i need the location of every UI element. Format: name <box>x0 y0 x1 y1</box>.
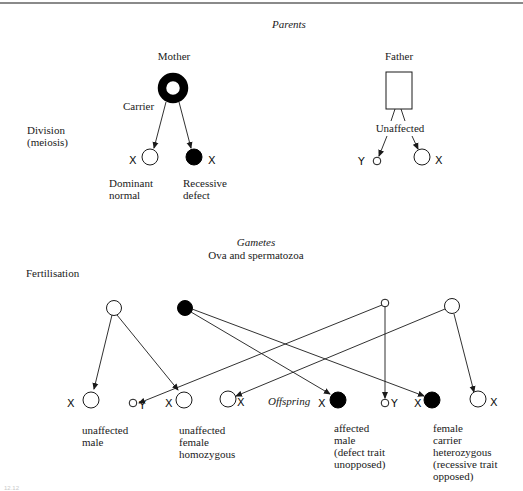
caption-line: heterozygous <box>433 446 492 458</box>
caption-line: unaffected <box>82 424 129 436</box>
caption-line: unopposed) <box>334 458 386 471</box>
caption-line: carrier <box>433 434 462 446</box>
offspring-caption-female-carrier: female carrier heterozygous (recessive t… <box>433 422 497 483</box>
gamete-x-marker: X <box>129 154 137 167</box>
y-sperm-symbol <box>373 157 381 165</box>
caption-line: male <box>82 436 103 448</box>
father-to-y-gamete-arrow <box>379 136 387 156</box>
father-to-x-gamete-arrow <box>412 136 418 149</box>
y-sperm-symbol <box>381 299 389 307</box>
offspring-x-marker: X <box>67 397 75 410</box>
mother-status: Carrier <box>123 100 154 112</box>
fertilisation-label: Fertilisation <box>26 267 80 279</box>
offspring-caption-affected-male: affected male (defect trait unopposed) <box>334 422 386 471</box>
father-leg-line <box>391 109 395 121</box>
offspring-defect-ovum-symbol <box>330 392 346 408</box>
fertilisation-line <box>117 315 178 390</box>
fertilisation-line <box>454 314 474 392</box>
x-linked-inheritance-diagram: Parents Gametes Ova and spermatozoa Divi… <box>0 0 523 491</box>
father-male-symbol <box>386 72 412 109</box>
normal-ovum-symbol <box>142 149 158 165</box>
offspring-x-marker: X <box>165 397 173 410</box>
caption-line: female <box>179 436 209 448</box>
fertilisation-line <box>192 309 424 396</box>
offspring-normal-ovum-symbol <box>83 392 99 408</box>
x-sperm-symbol <box>445 299 460 314</box>
caption-line: unaffected <box>179 424 226 436</box>
offspring-x-sperm-symbol <box>470 391 486 407</box>
offspring-defect-ovum-symbol <box>424 392 440 408</box>
offspring-x-marker: X <box>490 396 498 409</box>
mother-to-defect-gamete-arrow <box>179 102 191 148</box>
figure-number: 12.12 <box>4 485 20 491</box>
offspring-x-marker: X <box>237 396 245 409</box>
caption-line: opposed) <box>433 470 474 483</box>
x-sperm-symbol <box>414 149 430 165</box>
mother-carrier-symbol <box>162 77 184 99</box>
dominant-normal-caption-2: normal <box>109 189 140 201</box>
parents-heading: Parents <box>271 18 306 30</box>
offspring-y-marker: Y <box>138 399 146 412</box>
dominant-normal-caption-1: Dominant <box>109 177 153 189</box>
father-status: Unaffected <box>376 122 425 134</box>
offspring-x-sperm-symbol <box>220 391 236 407</box>
gamete-x-marker: X <box>435 154 443 167</box>
defect-ovum-symbol <box>186 149 202 165</box>
caption-line: female <box>433 422 463 434</box>
offspring-x-marker: X <box>318 397 326 410</box>
gametes-heading: Gametes <box>237 236 276 248</box>
division-label-line2: (meiosis) <box>27 136 68 149</box>
division-label-line1: Division <box>27 124 65 136</box>
mother-to-normal-gamete-arrow <box>154 102 166 148</box>
fertilisation-line <box>94 315 112 389</box>
caption-line: homozygous <box>179 448 235 460</box>
offspring-x-marker: X <box>414 397 422 410</box>
caption-line: affected <box>334 422 370 434</box>
father-leg-line <box>401 109 405 121</box>
offspring-heading: Offspring <box>268 395 311 407</box>
offspring-normal-ovum-symbol <box>176 392 192 408</box>
offspring-caption-unaffected-male: unaffected male <box>82 424 129 448</box>
offspring-y-marker: Y <box>390 397 398 410</box>
fertilisation-line <box>139 305 382 403</box>
offspring-y-sperm-symbol <box>129 399 137 407</box>
mother-label: Mother <box>158 50 191 62</box>
father-label: Father <box>385 50 413 62</box>
defect-ovum-symbol <box>178 301 193 316</box>
caption-line: male <box>334 434 355 446</box>
gamete-y-marker: Y <box>357 155 365 168</box>
gametes-subheading: Ova and spermatozoa <box>208 249 303 261</box>
normal-ovum-symbol <box>107 301 122 316</box>
offspring-caption-unaffected-female: unaffected female homozygous <box>179 424 235 460</box>
gamete-x-marker: X <box>208 154 216 167</box>
recessive-defect-caption-2: defect <box>183 189 210 201</box>
recessive-defect-caption-1: Recessive <box>183 177 227 189</box>
offspring-y-sperm-symbol <box>381 399 389 407</box>
